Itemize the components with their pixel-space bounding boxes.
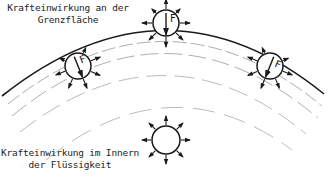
force-arrow bbox=[83, 79, 87, 88]
force-arrow bbox=[152, 9, 156, 13]
force-arrow bbox=[283, 58, 289, 60]
force-arrow bbox=[60, 58, 66, 60]
force-arrow bbox=[283, 71, 292, 75]
force-arrow bbox=[177, 151, 183, 157]
force-arrow bbox=[149, 151, 155, 157]
force-arrow bbox=[149, 123, 155, 129]
interior-force-label: Krafteinwirkung im Innern der Flüssigkei… bbox=[0, 147, 140, 171]
force-arrow bbox=[83, 48, 85, 54]
surface-label-line2: Grenzfläche bbox=[2, 14, 134, 26]
force-symbol: F bbox=[170, 13, 176, 24]
force-arrow bbox=[176, 33, 183, 40]
interior-label-line2: der Flüssigkeit bbox=[0, 159, 140, 171]
molecule-circle bbox=[152, 126, 180, 154]
force-arrow bbox=[262, 48, 264, 54]
interior-label-line1: Krafteinwirkung im Innern bbox=[0, 147, 140, 159]
surface-force-label: Krafteinwirkung an der Grenzfläche bbox=[2, 2, 134, 26]
molecule-surface-right: F bbox=[248, 48, 293, 89]
force-arrow bbox=[56, 71, 65, 75]
force-arrow bbox=[91, 71, 100, 75]
force-arrow bbox=[275, 79, 279, 88]
force-arrow bbox=[69, 79, 73, 88]
surface-label-line1: Krafteinwirkung an der bbox=[2, 2, 134, 14]
force-arrow bbox=[177, 123, 183, 129]
force-arrow bbox=[91, 57, 100, 61]
molecule-interior bbox=[142, 116, 190, 164]
force-arrow bbox=[149, 33, 156, 40]
force-arrow bbox=[176, 9, 180, 13]
molecule-surface-center: F bbox=[142, 0, 190, 47]
